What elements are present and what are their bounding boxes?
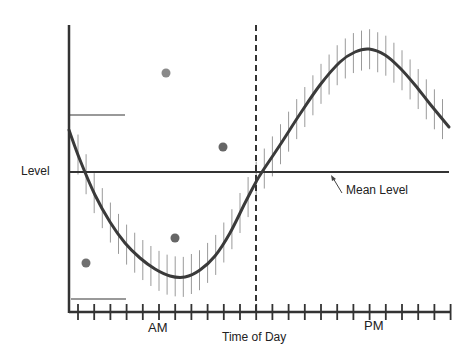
- y-axis-label: Level: [21, 164, 50, 178]
- pm-label: PM: [364, 318, 384, 333]
- scatter-point: [82, 259, 91, 268]
- scatter-point: [162, 69, 171, 78]
- scatter-point: [171, 234, 180, 243]
- mean-level-arrow: [333, 178, 342, 193]
- scatter-points: [82, 69, 228, 268]
- am-label: AM: [148, 320, 168, 335]
- rhythm-chart: [0, 0, 474, 363]
- error-bars: [78, 29, 443, 297]
- rhythm-curve: [69, 49, 449, 278]
- arrow-head-icon: [331, 175, 336, 181]
- mean-level-annotation: Mean Level: [346, 183, 408, 197]
- x-axis-title: Time of Day: [222, 330, 286, 344]
- scatter-point: [219, 143, 228, 152]
